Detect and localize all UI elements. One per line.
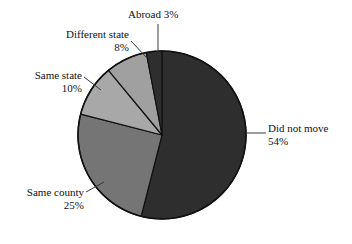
slice-label-same-state-value: 10% [6, 82, 82, 95]
slice-label-same-state-name: Same state [6, 69, 82, 82]
slice-label-abroad-name: Abroad 3% [128, 8, 178, 21]
pie-slices [78, 51, 246, 219]
slice-label-different-state-name: Different state [43, 28, 129, 41]
slice-label-did-not-move: Did not move 54% [268, 122, 329, 148]
slice-label-different-state: Different state 8% [43, 28, 129, 54]
slice-label-same-state: Same state 10% [6, 69, 82, 95]
slice-label-abroad: Abroad 3% [128, 8, 178, 21]
slice-label-different-state-value: 8% [43, 41, 129, 54]
slice-label-did-not-move-name: Did not move [268, 122, 329, 135]
pie-chart-figure: Did not move 54% Abroad 3% Different sta… [0, 0, 352, 244]
slice-label-same-county: Same county 25% [2, 186, 84, 212]
slice-label-did-not-move-value: 54% [268, 135, 329, 148]
slice-label-same-county-name: Same county [2, 186, 84, 199]
slice-label-same-county-value: 25% [2, 199, 84, 212]
